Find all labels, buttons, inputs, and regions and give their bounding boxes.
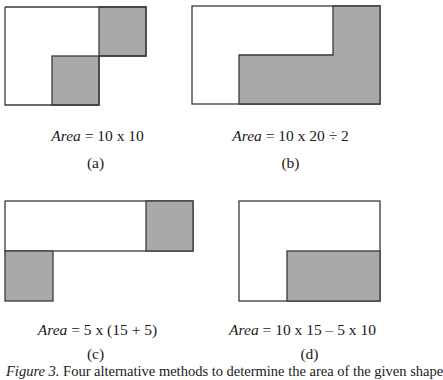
caption-text: Four alternative methods to determine th… [59, 363, 443, 379]
formula-variable: Area [51, 127, 81, 144]
panel-a-shape [5, 7, 146, 105]
panel-b-shape [192, 6, 380, 104]
figure-number: Figure 3. [6, 363, 59, 379]
panel-d-formula: Area = 10 x 15 – 5 x 10 [215, 321, 390, 339]
panel-d-shape [239, 201, 380, 301]
panel-a-shaded-top-square [99, 7, 146, 56]
panel-b-formula: Area = 10 x 20 ÷ 2 [193, 127, 388, 145]
formula-expression: = 10 x 15 – 5 x 10 [259, 321, 376, 338]
formula-variable: Area [38, 321, 68, 338]
formula-expression: = 10 x 20 ÷ 2 [262, 127, 349, 144]
formula-variable: Area [232, 127, 262, 144]
panel-a-shaded-bottom-square [52, 56, 99, 105]
figure-caption: Figure 3. Four alternative methods to de… [6, 363, 443, 380]
panel-c-label: (c) [0, 345, 193, 363]
panel-d-label: (d) [212, 345, 407, 363]
panel-d-shaded-rect [287, 251, 380, 301]
panel-b-label: (b) [193, 154, 388, 172]
panel-c-shaded-left-square [5, 251, 53, 301]
panel-a-label: (a) [0, 154, 193, 172]
panel-c-formula: Area = 5 x (15 + 5) [0, 321, 195, 339]
formula-expression: = 10 x 10 [81, 127, 144, 144]
panel-a-formula: Area = 10 x 10 [0, 127, 195, 145]
panel-c-shape [5, 201, 193, 301]
formula-expression: = 5 x (15 + 5) [67, 321, 157, 338]
formula-variable: Area [229, 321, 259, 338]
panel-c-shaded-right-square [146, 201, 193, 251]
